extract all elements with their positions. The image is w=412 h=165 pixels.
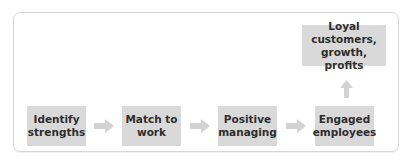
step-label-line1: Positive (218, 113, 277, 126)
outcome-label-line2: growth, profits (302, 46, 386, 72)
step-identify-strengths: Identify strengths (27, 106, 86, 146)
outcome-label-line1: Loyal customers, (302, 20, 386, 46)
step-label-line2: work (125, 126, 177, 139)
step-label-line1: Match to (125, 113, 177, 126)
arrow-up-icon (340, 80, 353, 98)
step-label-line1: Identify (28, 113, 85, 126)
step-label-line2: employees (313, 126, 377, 139)
step-label-line1: Engaged (313, 113, 377, 126)
step-label-line2: strengths (28, 126, 85, 139)
step-label-line2: managing (218, 126, 277, 139)
outcome-loyal-customers: Loyal customers, growth, profits (302, 25, 386, 66)
step-positive-managing: Positive managing (218, 106, 277, 146)
arrow-right-icon (190, 119, 210, 133)
arrow-right-icon (286, 119, 306, 133)
step-match-to-work: Match to work (122, 106, 181, 146)
step-engaged-employees: Engaged employees (315, 106, 374, 146)
arrow-right-icon (94, 119, 114, 133)
